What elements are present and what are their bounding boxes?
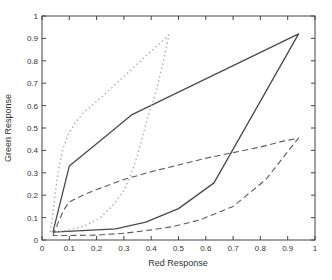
y-tick-label: 0.3 [27,169,39,178]
y-axis-label: Green Response [3,94,13,162]
x-tick-label: 1 [313,244,318,253]
y-tick-label: 0.8 [27,57,39,66]
x-tick-label: 0 [40,244,45,253]
x-tick-label: 0.1 [64,244,76,253]
y-tick-label: 0.2 [27,191,39,200]
chart: 00.10.20.30.40.50.60.70.80.91 00.10.20.3… [0,0,332,280]
x-tick-label: 0.5 [173,244,185,253]
y-tick-label: 1 [34,12,39,21]
y-tick-label: 0.9 [27,34,39,43]
x-tick-label: 0.7 [228,244,240,253]
x-tick-label: 0.9 [282,244,294,253]
x-tick-label: 0.6 [200,244,212,253]
y-tick-label: 0.1 [27,214,39,223]
y-tick-label: 0 [34,236,39,245]
x-tick-label: 0.2 [91,244,103,253]
x-tick-label: 0.3 [118,244,130,253]
x-axis-label: Red Response [148,258,208,268]
x-tick-label: 0.8 [255,244,267,253]
x-tick-label: 0.4 [146,244,158,253]
y-tick-label: 0.4 [27,146,39,155]
figure: 00.10.20.30.40.50.60.70.80.91 00.10.20.3… [0,0,332,280]
y-tick-label: 0.6 [27,102,39,111]
y-tick-label: 0.7 [27,79,39,88]
y-tick-label: 0.5 [27,124,39,133]
